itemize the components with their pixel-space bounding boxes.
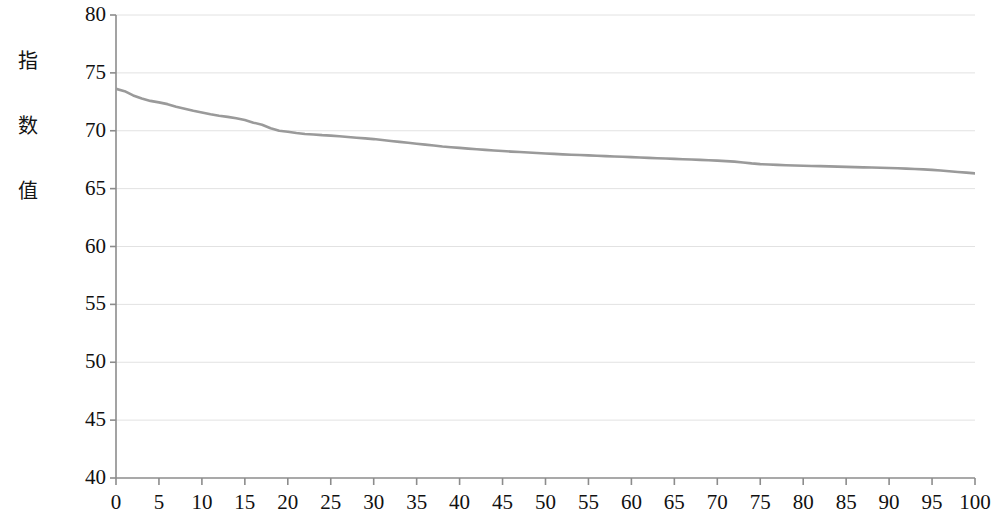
x-axis-tick-label: 45 — [492, 492, 513, 513]
x-axis-tick-label: 95 — [922, 492, 943, 513]
x-axis-tick-label: 85 — [836, 492, 857, 513]
x-axis-tick-label: 65 — [664, 492, 685, 513]
x-axis-tick-label: 15 — [234, 492, 255, 513]
x-axis-tick-label: 20 — [277, 492, 298, 513]
series-line — [116, 89, 975, 174]
x-axis-tick-label: 90 — [879, 492, 900, 513]
x-axis-tick-label: 30 — [363, 492, 384, 513]
x-axis-tick-label: 70 — [707, 492, 728, 513]
x-axis-tick-label: 0 — [111, 492, 122, 513]
x-axis-tick-label: 40 — [449, 492, 470, 513]
x-axis-tick-label: 100 — [959, 492, 991, 513]
x-axis-tick-label: 25 — [320, 492, 341, 513]
x-axis-tick-label: 50 — [535, 492, 556, 513]
x-axis-tick-label: 60 — [621, 492, 642, 513]
x-axis-tick-label: 35 — [406, 492, 427, 513]
x-axis-tick-label: 75 — [750, 492, 771, 513]
plot-area — [116, 15, 975, 478]
x-axis-tick-label: 10 — [191, 492, 212, 513]
x-axis-tick-label: 80 — [793, 492, 814, 513]
x-axis-tick-label: 55 — [578, 492, 599, 513]
series-line-group — [116, 15, 975, 478]
x-axis-tick-label: 5 — [154, 492, 165, 513]
